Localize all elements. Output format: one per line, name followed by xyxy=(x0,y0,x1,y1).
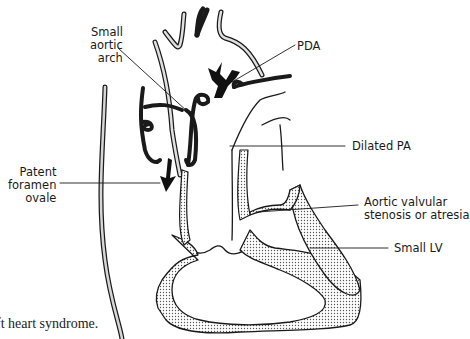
leader-lines xyxy=(60,45,388,248)
pda-vessel xyxy=(234,76,290,87)
heart-outline xyxy=(181,92,290,254)
superior-vena-cava xyxy=(101,87,122,339)
figure-caption-fragment: ft heart syndrome. xyxy=(0,316,98,332)
ventricle-walls xyxy=(156,150,361,333)
label-dilated-pa: Dilated PA xyxy=(352,140,411,153)
label-small-lv: Small LV xyxy=(394,242,443,255)
label-aortic-valvular-stenosis: Aortic valvular stenosis or atresia xyxy=(364,196,470,222)
foramen-flow-arrow xyxy=(160,158,176,192)
label-patent-foramen-ovale: Patent foramen ovale xyxy=(8,166,56,205)
label-small-aortic-arch: Small aortic arch xyxy=(90,26,123,65)
label-pda: PDA xyxy=(297,40,320,53)
